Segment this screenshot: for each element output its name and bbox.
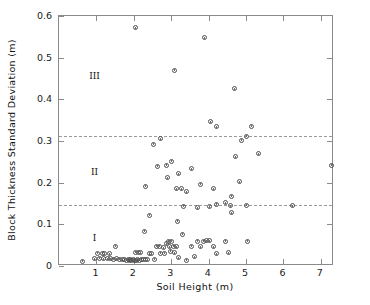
data-point [198,182,203,187]
data-point [229,210,234,215]
data-point [228,203,233,208]
x-tick-top-7 [321,16,322,21]
scatter-plot-figure: Block Thickness Standard Deviation (m) I… [0,0,370,305]
data-point [147,213,152,218]
data-point [207,204,212,209]
y-tick-label-0.5: 0.5 [37,51,52,62]
x-tick-6 [283,259,284,264]
data-point [107,251,112,256]
data-point [192,254,197,259]
x-tick-7 [321,259,322,264]
data-point [164,163,169,168]
y-tick-label-0.6: 0.6 [37,10,52,21]
region-label-iii: III [89,71,100,81]
data-point [142,229,147,234]
y-tick-0.3 [59,141,64,142]
data-point [226,250,231,255]
data-point [175,219,180,224]
y-tick-0 [59,266,64,267]
data-point [239,138,244,143]
data-point [245,239,250,244]
data-point [143,184,148,189]
data-point [214,202,219,207]
data-point [184,189,189,194]
x-tick-label-7: 7 [317,267,323,278]
data-point [161,245,166,250]
data-point [149,251,154,256]
x-tick-top-2 [134,16,135,21]
data-point [155,164,160,169]
data-point [249,124,254,129]
data-point [237,179,242,184]
y-tick-0.6 [59,16,64,17]
data-point [223,239,228,244]
data-point [162,251,167,256]
x-tick-3 [171,259,172,264]
y-tick-0.5 [59,58,64,59]
data-point [233,154,238,159]
x-tick-label-2: 2 [130,267,136,278]
data-point [80,259,85,264]
y-tick-0.1 [59,224,64,225]
data-point [232,86,237,91]
y-tick-right-0.4 [327,99,332,100]
data-point [207,238,212,243]
data-point [181,204,186,209]
data-point [189,166,194,171]
y-tick-right-0.1 [327,224,332,225]
y-tick-label-0.1: 0.1 [37,218,52,229]
y-tick-label-0.4: 0.4 [37,93,52,104]
y-tick-label-0.3: 0.3 [37,135,52,146]
y-tick-0.2 [59,183,64,184]
data-point [152,257,157,262]
data-point [244,134,249,139]
data-point [244,203,249,208]
data-point [174,244,179,249]
x-tick-label-3: 3 [167,267,173,278]
data-point [256,151,261,156]
data-point [211,244,216,249]
region-label-ii: II [91,167,98,177]
x-axis-label: Soil Height (m) [156,281,233,292]
x-tick-5 [246,259,247,264]
data-point [145,257,150,262]
y-tick-label-0: 0 [46,260,52,271]
data-point [198,244,203,249]
x-tick-top-4 [209,16,210,21]
y-tick-right-0.2 [327,183,332,184]
x-tick-top-5 [246,16,247,21]
data-point [169,239,174,244]
data-point [184,258,189,263]
data-point [176,255,181,260]
data-point [202,35,207,40]
data-point [214,124,219,129]
data-point [172,68,177,73]
data-point [95,251,100,256]
y-tick-right-0.5 [327,58,332,59]
data-point [113,244,118,249]
data-point [329,163,334,168]
x-tick-label-4: 4 [205,267,211,278]
x-tick-label-5: 5 [242,267,248,278]
data-point [290,203,295,208]
reference-line-1 [59,136,332,137]
data-point [138,250,143,255]
y-tick-label-0.2: 0.2 [37,176,52,187]
y-axis-label: Block Thickness Standard Deviation (m) [6,39,17,240]
data-point [208,119,213,124]
plot-area: IIIIII [58,15,333,265]
data-point [158,136,163,141]
data-point [195,239,200,244]
x-tick-4 [209,259,210,264]
data-point [151,142,156,147]
x-tick-label-6: 6 [279,267,285,278]
y-tick-right-0.3 [327,141,332,142]
data-point [214,251,219,256]
data-point [176,171,181,176]
data-point [169,159,174,164]
x-tick-label-1: 1 [92,267,98,278]
y-tick-0.4 [59,99,64,100]
data-point [229,194,234,199]
data-point [211,186,216,191]
region-label-i: I [93,233,97,243]
